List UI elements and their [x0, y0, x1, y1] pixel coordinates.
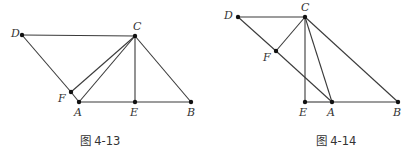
point-E — [133, 100, 137, 104]
point-label-B: B — [392, 106, 401, 119]
segment-DC — [22, 35, 135, 36]
point-label-A: A — [326, 106, 335, 119]
caption-figure-4-14: 图 4-14 — [316, 134, 357, 148]
point-F — [274, 49, 278, 53]
point-label-F: F — [262, 51, 271, 64]
geometry-diagram: DCFAEB 图 4-13 DCFEAB 图 4-14 — [0, 0, 410, 161]
segment-CF — [276, 17, 305, 51]
segment-DF — [238, 17, 276, 51]
point-label-A: A — [73, 106, 82, 119]
segment-DF — [22, 35, 71, 92]
point-label-D: D — [10, 27, 20, 40]
segment-CB — [135, 36, 191, 102]
point-label-E: E — [129, 106, 138, 119]
point-label-B: B — [186, 106, 195, 119]
segment-CA — [79, 36, 135, 102]
point-label-F: F — [57, 92, 66, 105]
figure-4-13: DCFAEB — [10, 20, 195, 119]
caption-figure-4-13: 图 4-13 — [80, 134, 121, 148]
point-F — [69, 90, 73, 94]
point-D — [236, 15, 240, 19]
point-A — [77, 100, 81, 104]
point-C — [303, 15, 307, 19]
point-B — [189, 100, 193, 104]
point-label-C: C — [133, 20, 142, 33]
point-label-C: C — [301, 1, 310, 14]
point-C — [133, 34, 137, 38]
point-D — [20, 33, 24, 37]
point-B — [396, 100, 400, 104]
point-A — [330, 100, 334, 104]
point-label-D: D — [223, 9, 233, 22]
figure-4-14: DCFEAB — [223, 1, 401, 119]
point-label-E: E — [298, 106, 307, 119]
point-E — [303, 100, 307, 104]
segment-CF — [71, 36, 135, 92]
